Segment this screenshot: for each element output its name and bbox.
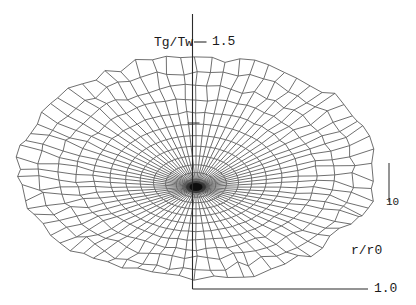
scale-marker-label: 10 xyxy=(386,196,399,208)
plot-line xyxy=(196,59,240,187)
plot-line xyxy=(196,78,297,187)
plot-line xyxy=(38,72,355,271)
plot-line xyxy=(196,121,357,187)
plot-line xyxy=(194,57,197,187)
plot-line xyxy=(196,187,351,224)
plot-line xyxy=(181,58,196,187)
plot-line xyxy=(194,187,197,280)
z-axis-tick-label-1-0: 1.0 xyxy=(374,282,397,296)
plot-line xyxy=(196,149,374,187)
plot-line xyxy=(196,86,310,187)
z-axis-tick-label-1-5: 1.5 xyxy=(212,35,235,49)
plot-line xyxy=(196,57,212,187)
plot-line xyxy=(51,104,196,188)
wireframe-mesh-canvas xyxy=(0,0,416,305)
surface-plot-figure: Tg/Tw 1.5 1.0 r/r0 10 xyxy=(0,0,416,305)
r-axis-label: r/r0 xyxy=(351,244,382,258)
plot-line xyxy=(27,187,196,209)
z-axis-label: Tg/Tw xyxy=(154,36,193,50)
center-convergence-blob xyxy=(190,183,203,191)
plot-line xyxy=(58,98,196,187)
